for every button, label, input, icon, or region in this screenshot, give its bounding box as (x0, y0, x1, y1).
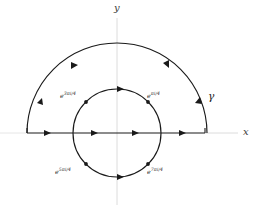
arrowhead-axis-3 (132, 130, 139, 136)
contour-diagram: y x γ e3πi/4 eπi/4 e5πi/4 e7πi/4 (0, 0, 271, 212)
point-label-e-3pi-i-over-4: e3πi/4 (60, 92, 76, 99)
point-label-exponent: 5πi/4 (59, 167, 71, 172)
point-label-e-7pi-i-over-4: e7πi/4 (147, 168, 163, 175)
arrowhead-axis-4 (179, 130, 186, 136)
point-label-e-pi-i-over-4: eπi/4 (147, 92, 160, 99)
arrowhead-inner-top (117, 86, 124, 92)
point-label-e-5pi-i-over-4: e5πi/4 (55, 168, 71, 175)
gamma-label: γ (208, 90, 214, 102)
point-label-exponent: 7πi/4 (151, 167, 163, 172)
x-axis-label: x (243, 126, 249, 137)
marker-e-3pi-i-over-4 (84, 100, 88, 104)
marker-e-5pi-i-over-4 (84, 162, 88, 166)
y-axis-label: y (114, 2, 120, 13)
arrowhead-outer-right (195, 97, 202, 104)
arrowhead-outer-upper-left (71, 62, 78, 69)
point-label-exponent: πi/4 (151, 91, 160, 96)
arrowhead-outer-upper-right (163, 60, 169, 68)
marker-e-7pi-i-over-4 (146, 162, 150, 166)
arrowhead-outer-left (37, 98, 43, 105)
point-label-exponent: 3πi/4 (64, 91, 76, 96)
arrowhead-axis-2 (91, 130, 98, 136)
arrowhead-axis-1 (44, 130, 51, 136)
arrowhead-inner-bottom (117, 174, 124, 180)
contour-figure-canvas (0, 0, 271, 212)
marker-e-pi-i-over-4 (146, 100, 150, 104)
